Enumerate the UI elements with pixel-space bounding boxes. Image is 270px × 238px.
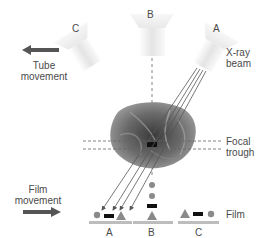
object-cross-section xyxy=(110,102,196,168)
tube-movement-arrowhead xyxy=(22,45,31,55)
film-movement-arrowhead xyxy=(51,207,61,217)
film-b xyxy=(133,193,173,224)
film-position-c-label: C xyxy=(195,227,202,238)
xray-tube-b xyxy=(130,14,174,56)
film-position-b-label: B xyxy=(148,227,155,238)
tube-movement-label: Tube movement xyxy=(14,60,74,82)
tube-a-label: A xyxy=(213,23,220,34)
film-label: Film xyxy=(226,209,245,220)
film-c xyxy=(178,209,219,224)
object-dot xyxy=(149,182,155,188)
film-a xyxy=(89,211,132,224)
film-movement-label: Film movement xyxy=(10,184,66,206)
tube-c-label: C xyxy=(72,23,79,34)
film-position-a-label: A xyxy=(106,227,113,238)
tube-b-label: B xyxy=(147,9,154,20)
xray-beam-label: X-ray beam xyxy=(226,47,251,69)
focal-trough-label: Focal trough xyxy=(226,136,254,158)
